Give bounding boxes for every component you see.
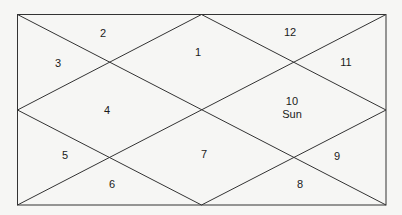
house-9-label: 9 [334, 150, 340, 163]
house-7-label: 7 [201, 148, 207, 161]
house-12-label: 12 [284, 26, 296, 39]
house-1-label: 1 [195, 46, 201, 59]
house-10-planet-sun: Sun [282, 108, 302, 121]
house-5-label: 5 [62, 149, 68, 162]
house-11-label: 11 [340, 56, 351, 69]
house-6-label: 6 [109, 178, 115, 191]
house-8-label: 8 [297, 178, 303, 191]
astrology-chart: 1 2 3 4 5 6 7 8 9 10 Sun 11 12 [0, 0, 402, 215]
house-10-label: 10 Sun [282, 95, 302, 121]
chart-lines [0, 0, 402, 215]
house-4-label: 4 [104, 104, 110, 117]
house-10-number: 10 [282, 95, 302, 108]
house-3-label: 3 [55, 57, 61, 70]
house-2-label: 2 [100, 27, 106, 40]
